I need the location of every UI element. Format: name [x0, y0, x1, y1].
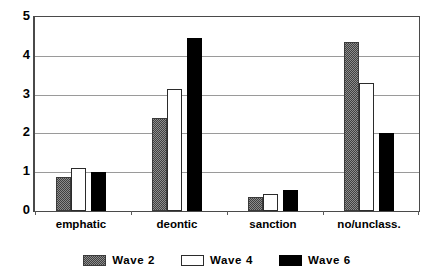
y-tick-label-1: 1 — [4, 164, 30, 177]
legend-label-wave6: Wave 6 — [308, 255, 351, 267]
bar-nounclass-wave4 — [359, 83, 374, 211]
legend-label-wave2: Wave 2 — [112, 255, 155, 267]
bar-sanction-wave6 — [283, 190, 298, 211]
bar-emphatic-wave2 — [56, 177, 71, 211]
y-tick-label-2: 2 — [4, 125, 30, 138]
x-tick — [227, 211, 228, 215]
x-category-label-emphatic: emphatic — [33, 219, 129, 231]
bar-emphatic-wave6 — [91, 172, 106, 211]
legend-swatch-wave6 — [279, 255, 302, 266]
x-category-label-sanction: sanction — [225, 219, 321, 231]
bar-emphatic-wave4 — [71, 168, 86, 211]
x-tick — [323, 211, 324, 215]
x-tick — [418, 211, 419, 215]
bar-sanction-wave2 — [248, 197, 263, 211]
legend-swatch-wave4 — [181, 255, 204, 266]
bar-nounclass-wave6 — [379, 133, 394, 211]
y-tick-label-5: 5 — [4, 9, 30, 22]
x-tick — [35, 211, 36, 215]
plot-area — [33, 16, 420, 212]
x-category-label-nounclass: no/unclass. — [321, 219, 417, 231]
y-tick-label-0: 0 — [4, 203, 30, 216]
legend-item-wave6: Wave 6 — [279, 255, 351, 267]
chart-legend: Wave 2Wave 4Wave 6 — [0, 255, 434, 267]
x-category-label-deontic: deontic — [129, 219, 225, 231]
bar-deontic-wave4 — [167, 89, 182, 211]
bar-chart-figure: 012345 emphaticdeonticsanctionno/unclass… — [0, 0, 434, 280]
bar-deontic-wave6 — [187, 38, 202, 211]
legend-item-wave4: Wave 4 — [181, 255, 253, 267]
gridline-4 — [35, 56, 419, 57]
y-tick-label-4: 4 — [4, 48, 30, 61]
bar-nounclass-wave2 — [344, 42, 359, 211]
legend-swatch-wave2 — [83, 255, 106, 266]
legend-item-wave2: Wave 2 — [83, 255, 155, 267]
bar-deontic-wave2 — [152, 118, 167, 211]
x-tick — [131, 211, 132, 215]
y-tick-label-3: 3 — [4, 87, 30, 100]
legend-label-wave4: Wave 4 — [210, 255, 253, 267]
bar-sanction-wave4 — [263, 194, 278, 211]
